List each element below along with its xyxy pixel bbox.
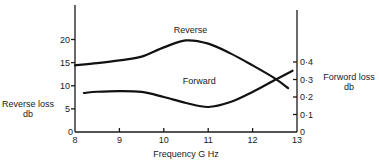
chart: 89101112130510152000·10·20·30·4 ReverseF… (0, 0, 379, 168)
ticks: 89101112130510152000·10·20·30·4 (60, 35, 313, 146)
y-tick-label: 20 (60, 35, 70, 45)
x-tick-label: 8 (72, 135, 77, 145)
series-label-forward: Forward (183, 76, 216, 86)
y-tick-label: 15 (60, 58, 70, 68)
y-tick-label: 5 (65, 104, 70, 114)
x-tick-label: 9 (117, 135, 122, 145)
y2-axis-label-line2: db (344, 82, 354, 92)
series-label-reverse: Reverse (174, 25, 208, 35)
y-tick-label: 10 (60, 81, 70, 91)
x-tick-label: 10 (159, 135, 169, 145)
axes (75, 5, 297, 132)
y-axis-label-line1: Reverse loss (2, 99, 55, 109)
y2-tick-label: 0·3 (300, 75, 313, 85)
y2-tick-label: 0·1 (300, 110, 313, 120)
x-axis-label: Frequency G Hz (153, 149, 219, 159)
y2-tick-label: 0·2 (300, 92, 313, 102)
y-axis-label-line2: db (23, 109, 33, 119)
series-line-reverse (75, 40, 288, 88)
y2-tick-label: 0·4 (300, 57, 313, 67)
y2-axis-label-line1: Forword loss (323, 72, 375, 82)
y-tick-label: 0 (68, 127, 73, 137)
x-tick-label: 11 (204, 135, 213, 145)
series: ReverseForward (75, 25, 293, 106)
y2-tick-label: 0 (300, 127, 305, 137)
x-tick-label: 12 (248, 135, 258, 145)
